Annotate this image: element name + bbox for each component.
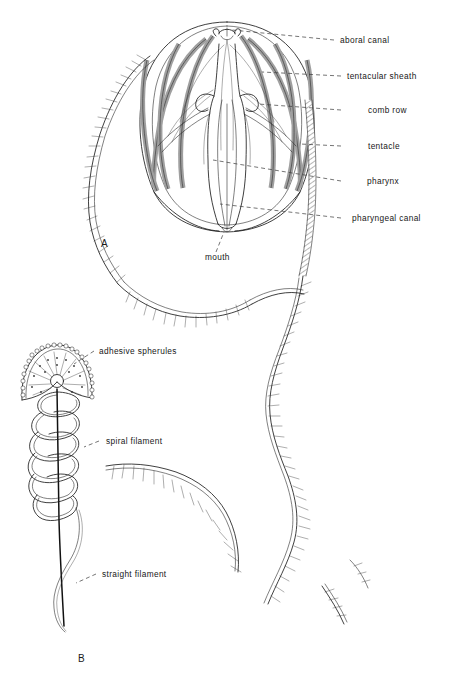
label-comb-row: comb row (368, 105, 407, 115)
label-mouth: mouth (205, 252, 230, 262)
tentilla-left-lower (126, 292, 249, 327)
label-spiral-filament: spiral filament (106, 436, 163, 446)
statocyst-apex (213, 28, 241, 40)
leader-straight-filament (76, 574, 96, 583)
label-tentacular-sheath: tentacular sheath (347, 71, 417, 81)
label-pharynx: pharynx (367, 176, 399, 186)
tentilla-left (83, 55, 146, 282)
label-straight-filament: straight filament (102, 569, 167, 579)
anatomy-illustration: aboral canal tentacular sheath comb row … (0, 0, 453, 684)
label-texts: aboral canal tentacular sheath comb row … (78, 35, 421, 664)
trailing-tentacles (83, 55, 370, 624)
panel-b-colloblast (21, 343, 94, 632)
label-tentacle: tentacle (368, 141, 400, 151)
leader-spiral-filament (84, 441, 99, 447)
leader-mouth (216, 232, 224, 252)
tentilla-lower-left (112, 465, 241, 572)
straight-filament-axis (57, 389, 64, 626)
spiral-filament (28, 392, 79, 521)
leader-aboral-canal (232, 30, 334, 40)
leader-pharynx (213, 160, 341, 181)
figure-plate: aboral canal tentacular sheath comb row … (0, 0, 453, 684)
panel-label-b: B (78, 653, 85, 664)
label-adhesive-spherules: adhesive spherules (99, 346, 177, 356)
label-aboral-canal: aboral canal (340, 35, 389, 45)
panel-a-body (140, 22, 316, 276)
panel-label-a: A (101, 238, 108, 249)
pharynx (196, 44, 259, 230)
label-pharyngeal-canal: pharyngeal canal (352, 213, 421, 223)
tentilla-bottom-right (325, 589, 346, 616)
